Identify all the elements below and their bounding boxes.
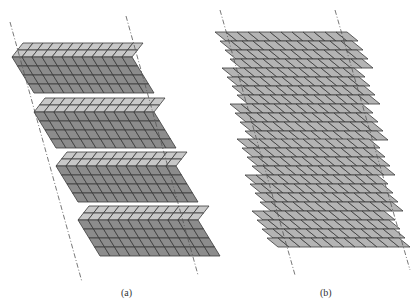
panel-a-caption: (a) (121, 287, 132, 298)
panel-a-zigzag-sheet (10, 16, 220, 282)
panel-b-stacked-sheets (215, 10, 410, 275)
figure-canvas (0, 0, 415, 308)
panel-b-caption: (b) (320, 287, 332, 298)
